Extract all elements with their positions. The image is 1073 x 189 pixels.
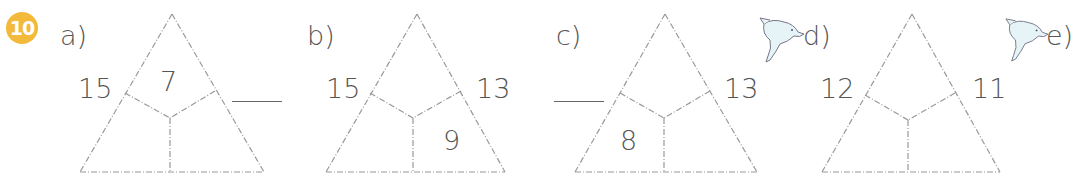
dolphin-icon bbox=[1004, 14, 1050, 64]
problem-e-label: e) bbox=[1046, 22, 1073, 49]
problem-d-right-sum: 11 bbox=[972, 75, 1006, 102]
problem-d-left-sum: 12 bbox=[820, 75, 854, 102]
